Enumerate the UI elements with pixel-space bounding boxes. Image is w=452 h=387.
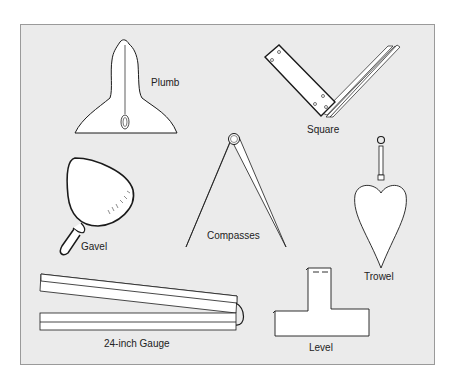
- plumb-label: Plumb: [151, 77, 179, 88]
- compasses-label: Compasses: [207, 230, 260, 241]
- gavel-label: Gavel: [81, 241, 107, 252]
- gauge-label: 24-inch Gauge: [104, 338, 170, 349]
- square-icon: [265, 45, 400, 117]
- square-label: Square: [307, 124, 339, 135]
- trowel-label: Trowel: [364, 271, 394, 282]
- level-label: Level: [309, 342, 333, 353]
- tools-illustration: [0, 0, 452, 387]
- level-icon: [273, 268, 369, 336]
- gauge-icon: [40, 274, 244, 330]
- trowel-icon: [355, 137, 407, 269]
